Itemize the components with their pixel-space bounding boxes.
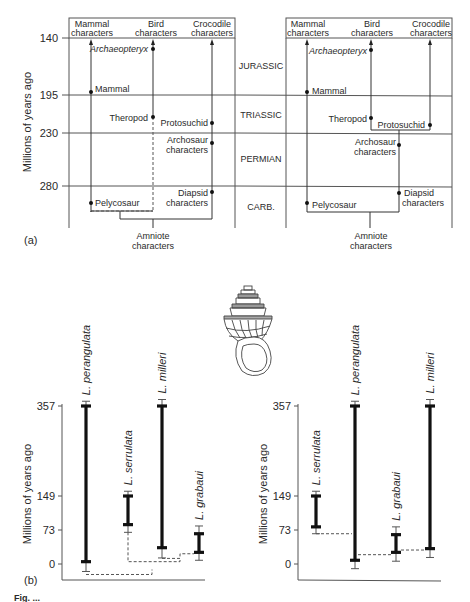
- x-axis-b-right: [298, 580, 441, 581]
- caption-fragment: Fig. ...: [14, 593, 40, 602]
- panel-b-label: (b): [24, 574, 37, 586]
- y-tick-label: 149: [37, 490, 55, 502]
- gridline-230-r: [235, 133, 452, 134]
- panel-b-left: Millions of years ago (b) 073149357L. pe…: [21, 325, 205, 586]
- node-theropod-r: [369, 116, 373, 120]
- node-mammal-r: [305, 90, 309, 94]
- node-theropod: [151, 115, 155, 119]
- ytick-195: 195: [40, 89, 58, 101]
- root-label-r-2: characters: [350, 241, 393, 251]
- species-label: L. milleri: [424, 352, 436, 394]
- y-axis-label-b-right: Millions of years ago: [257, 444, 269, 544]
- label-protosuchid-r: Protosuchid: [377, 120, 425, 130]
- gridline-280-r: [235, 186, 452, 187]
- label-diapsid-r-1: Diapsid: [404, 188, 434, 198]
- label-theropod-r: Theropod: [328, 114, 367, 124]
- species-label: L. grabaui: [193, 470, 205, 519]
- y-tick-label: 73: [43, 524, 55, 536]
- ghost-lineage-connector: [128, 532, 180, 561]
- ytick-230: 230: [40, 127, 58, 139]
- period-carb: CARB.: [247, 202, 275, 212]
- label-diapsid-1: Diapsid: [178, 188, 208, 198]
- arrow-bird-r: [369, 39, 373, 45]
- panel-a-left: 140 195 230 280 Millions of years ago Ma…: [21, 18, 235, 251]
- y-tick-label: 149: [273, 490, 291, 502]
- node-archosaur: [210, 141, 214, 145]
- panel-a-right: Mammal characters Bird characters Crocod…: [235, 18, 453, 251]
- label-archosaur-1: Archosaur: [167, 135, 208, 145]
- y-axis-label: Millions of years ago: [21, 72, 33, 172]
- node-protosuchid-r: [428, 123, 432, 127]
- period-triassic: TRIASSIC: [240, 110, 282, 120]
- panel-a-label: (a): [24, 234, 37, 246]
- label-archosaur-r-1: Archosaur: [355, 137, 396, 147]
- node-archaeopteryx-r: [369, 48, 373, 52]
- arrow-mammal-r: [305, 39, 309, 45]
- col-header-bird-2: characters: [135, 28, 178, 38]
- panel-b-right: Millions of years ago 073149357L. serrul…: [257, 325, 441, 581]
- label-mammal: Mammal: [95, 84, 130, 94]
- period-jurassic: JURASSIC: [239, 61, 284, 71]
- node-diapsid-r: [397, 191, 401, 195]
- label-pelycosaur: Pelycosaur: [95, 198, 140, 208]
- col-header-mammal-r-2: characters: [287, 28, 330, 38]
- label-theropod: Theropod: [109, 113, 148, 123]
- y-tick-label: 0: [285, 558, 291, 570]
- species-label: L. serrulata: [310, 430, 322, 485]
- arrow-croc: [210, 39, 214, 45]
- node-archosaur-r: [397, 143, 401, 147]
- label-archaeopteryx-r: Archaeopteryx: [308, 46, 368, 56]
- species-label: L. perangulata: [349, 325, 361, 395]
- species-label: L. grabaui: [390, 471, 402, 520]
- col-header-croc-r-2: characters: [410, 28, 453, 38]
- ytick-280: 280: [40, 180, 58, 192]
- label-diapsid-2: characters: [166, 198, 209, 208]
- label-mammal-r: Mammal: [312, 86, 347, 96]
- y-tick-label: 73: [279, 524, 291, 536]
- label-diapsid-r-2: characters: [402, 198, 445, 208]
- label-archosaur-2: characters: [166, 145, 209, 155]
- node-diapsid: [210, 190, 214, 194]
- arrow-bird: [151, 39, 155, 45]
- col-header-bird-r-2: characters: [351, 28, 394, 38]
- species-label: L. perangulata: [80, 325, 92, 395]
- label-archosaur-r-2: characters: [354, 147, 397, 157]
- node-archaeopteryx: [151, 47, 155, 51]
- period-labels: JURASSIC TRIASSIC PERMIAN CARB.: [239, 61, 284, 212]
- y-axis-label-b-left: Millions of years ago: [21, 444, 33, 544]
- species-label: L. serrulata: [122, 430, 134, 485]
- label-pelycosaur-r: Pelycosaur: [312, 200, 357, 210]
- node-pelycosaur-r: [305, 201, 309, 205]
- y-tick-label: 357: [37, 400, 55, 412]
- ghost-lineage-connector: [162, 554, 194, 559]
- node-protosuchid: [210, 121, 214, 125]
- ghost-lineage-connector: [86, 569, 152, 574]
- ytick-140: 140: [40, 32, 58, 44]
- root-label-1: Amniote: [136, 231, 169, 241]
- y-tick-label: 0: [49, 558, 55, 570]
- node-pelycosaur: [89, 201, 93, 205]
- species-label: L. milleri: [156, 352, 168, 394]
- col-header-croc-2: characters: [191, 28, 234, 38]
- root-label-r-1: Amniote: [354, 231, 387, 241]
- figure-canvas: 140 195 230 280 Millions of years ago Ma…: [0, 0, 470, 602]
- col-header-mammal-2: characters: [71, 28, 114, 38]
- label-protosuchid: Protosuchid: [160, 118, 208, 128]
- amniote-join: [120, 211, 212, 219]
- shell-icon: [224, 286, 272, 376]
- y-tick-label: 357: [273, 400, 291, 412]
- arrow-croc-r: [428, 39, 432, 45]
- root-label-2: characters: [132, 241, 175, 251]
- period-permian: PERMIAN: [240, 154, 281, 164]
- node-mammal: [89, 90, 93, 94]
- label-archaeopteryx: Archaeopteryx: [89, 44, 149, 54]
